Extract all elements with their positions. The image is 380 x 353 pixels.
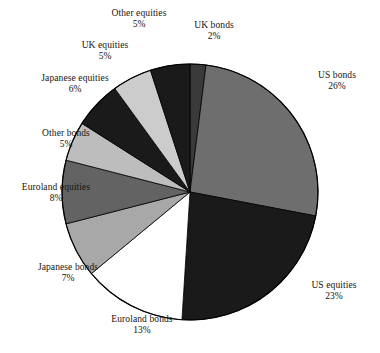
slice-label-uk-equities: UK equities 5% (60, 40, 150, 62)
slice-label-value: 6% (18, 84, 132, 95)
slice-label-value: 2% (176, 31, 252, 42)
slice-label-name: US equities (292, 280, 376, 291)
slice-label-us-bonds: US bonds 26% (300, 70, 374, 92)
slice-label-name: US bonds (300, 70, 374, 81)
pie-slice-us-bonds (190, 65, 318, 216)
pie-chart: Other equities 5% UK bonds 2% UK equitie… (0, 0, 380, 353)
slice-label-name: Japanese bonds (14, 262, 122, 273)
slice-label-japanese-equities: Japanese equities 6% (18, 73, 132, 95)
slice-label-value: 7% (14, 273, 122, 284)
slice-label-name: Euroland bonds (86, 314, 198, 325)
slice-label-name: UK equities (60, 40, 150, 51)
slice-label-name: Euroland equities (0, 182, 114, 193)
slice-label-uk-bonds: UK bonds 2% (176, 20, 252, 42)
slice-label-value: 5% (60, 51, 150, 62)
slice-label-value: 5% (20, 139, 112, 150)
slice-label-other-equities: Other equities 5% (96, 8, 182, 30)
slice-label-us-equities: US equities 23% (292, 280, 376, 302)
slice-label-name: UK bonds (176, 20, 252, 31)
slice-label-name: Other bonds (20, 128, 112, 139)
slice-label-value: 8% (0, 193, 114, 204)
slice-label-name: Japanese equities (18, 73, 132, 84)
slice-label-name: Other equities (96, 8, 182, 19)
slice-label-value: 13% (86, 325, 198, 336)
slice-label-value: 26% (300, 81, 374, 92)
slice-label-other-bonds: Other bonds 5% (20, 128, 112, 150)
slice-label-value: 5% (96, 19, 182, 30)
slice-label-value: 23% (292, 291, 376, 302)
slice-label-japanese-bonds: Japanese bonds 7% (14, 262, 122, 284)
slice-label-euroland-equities: Euroland equities 8% (0, 182, 114, 204)
slice-label-euroland-bonds: Euroland bonds 13% (86, 314, 198, 336)
